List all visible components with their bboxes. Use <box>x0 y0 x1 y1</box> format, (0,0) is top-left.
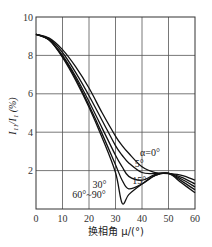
curve-label: α=0° <box>140 147 160 158</box>
x-tick-label: 50 <box>164 213 174 224</box>
curve-label: 30° <box>93 179 107 190</box>
curve-label: 60°~90° <box>72 189 105 200</box>
y-tick-label: 8 <box>28 50 33 61</box>
y-tick-labels: 246810 <box>23 12 33 177</box>
x-tick-label: 0 <box>34 213 39 224</box>
y-axis-label: I₁₁/I₁ (%) <box>7 97 19 136</box>
y-tick-label: 6 <box>28 88 33 99</box>
curve-label: 15° <box>132 175 146 186</box>
x-axis-label: 换相角 μ/(°) <box>88 225 144 237</box>
x-tick-label: 10 <box>58 213 68 224</box>
y-tick-label: 4 <box>28 127 33 138</box>
x-tick-labels: 0102030405060 <box>34 213 201 224</box>
x-tick-label: 40 <box>137 213 147 224</box>
x-tick-label: 20 <box>84 213 94 224</box>
y-tick-label: 2 <box>28 165 33 176</box>
curve-label: 5° <box>135 158 144 169</box>
y-tick-label: 10 <box>23 12 33 23</box>
x-tick-label: 30 <box>111 213 121 224</box>
x-tick-label: 60 <box>190 213 200 224</box>
grid-lines <box>36 17 195 209</box>
harmonic-ratio-chart: 0102030405060 246810 α=0°5°15°30°60°~90°… <box>0 0 212 247</box>
